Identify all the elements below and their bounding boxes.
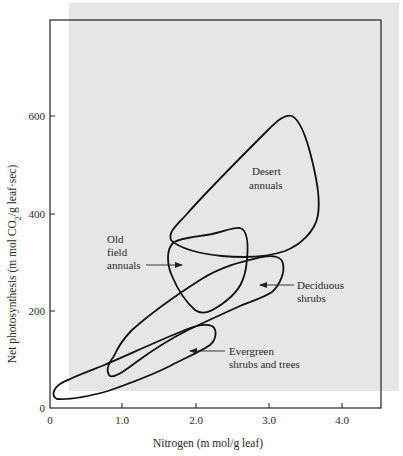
x-tick-label: 3.0 — [262, 414, 276, 426]
x-tick-label: 2.0 — [189, 414, 203, 426]
label-line: shrubs and trees — [229, 358, 300, 370]
y-tick-label: 200 — [29, 305, 46, 317]
chart-svg: 0 1.0 2.0 3.0 4.0 Nitrogen (m mol/g leaf… — [0, 0, 403, 456]
figure: 0 1.0 2.0 3.0 4.0 Nitrogen (m mol/g leaf… — [0, 0, 403, 456]
y-tick-label: 400 — [29, 208, 46, 220]
x-axis-title: Nitrogen (m mol/g leaf) — [153, 437, 263, 450]
label-line: Evergreen — [229, 345, 274, 357]
label-line: Desert — [252, 165, 281, 177]
x-tick-label: 1.0 — [115, 414, 129, 426]
x-axis: 0 1.0 2.0 3.0 4.0 Nitrogen (m mol/g leaf… — [47, 403, 349, 450]
x-tick-label: 4.0 — [335, 414, 349, 426]
label-line: annuals — [249, 179, 283, 191]
y-tick-label: 600 — [29, 110, 46, 122]
label-line: shrubs — [297, 292, 326, 304]
y-axis: 0 200 400 600 Net photosynthesis (m mol … — [6, 110, 55, 414]
x-tick-label: 0 — [47, 414, 53, 426]
label-line: annuals — [107, 259, 141, 271]
y-tick-label: 0 — [40, 402, 46, 414]
label-line: Deciduous — [297, 279, 344, 291]
label-line: Old — [107, 233, 124, 245]
label-line: field — [107, 246, 128, 258]
y-axis-title: Net photosynthesis (m mol CO2/g leaf·sec… — [6, 165, 23, 364]
shadow-panel — [69, 3, 399, 391]
